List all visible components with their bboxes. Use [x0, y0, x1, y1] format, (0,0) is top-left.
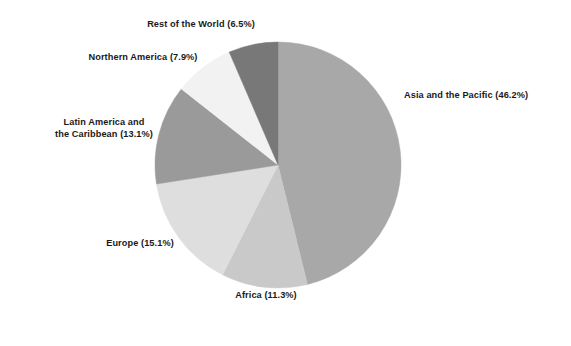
pie-slice-group	[155, 42, 401, 288]
pie-label-northern-america: Northern America (7.9%)	[56, 52, 230, 64]
pie-chart-figure: Asia and the Pacific (46.2%) Africa (11.…	[0, 0, 571, 346]
pie-label-europe: Europe (15.1%)	[76, 238, 204, 250]
pie-label-latin-america-line2: the Caribbean (13.1%)	[55, 129, 153, 139]
pie-label-asia-and-the-pacific: Asia and the Pacific (46.2%)	[404, 90, 528, 102]
pie-label-rest-of-the-world: Rest of the World (6.5%)	[121, 19, 281, 31]
pie-label-africa: Africa (11.3%)	[196, 290, 336, 302]
pie-label-latin-america-and-the-caribbean: Latin America andthe Caribbean (13.1%)	[26, 117, 182, 140]
pie-label-latin-america-line1: Latin America and	[64, 117, 145, 127]
